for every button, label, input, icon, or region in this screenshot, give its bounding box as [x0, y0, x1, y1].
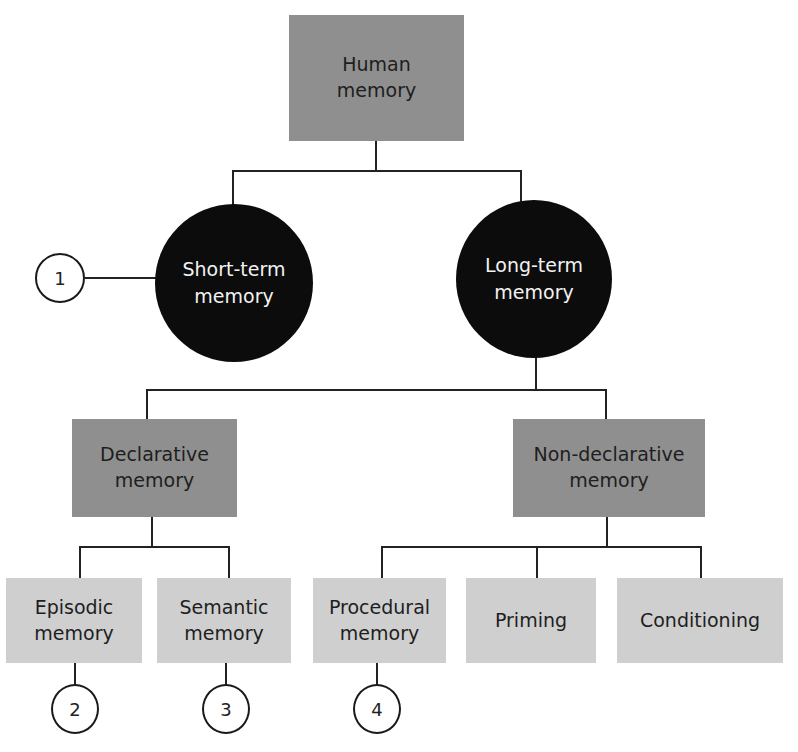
node-label: Conditioning — [640, 608, 760, 634]
marker-number: 2 — [69, 699, 80, 720]
connector-conditioning-drop — [700, 546, 702, 579]
marker-number: 4 — [371, 699, 382, 720]
connector-semantic-drop — [228, 546, 230, 579]
node-conditioning: Conditioning — [617, 578, 783, 663]
connector-marker-2 — [74, 663, 76, 685]
connector-level2-bar — [146, 389, 607, 391]
node-priming: Priming — [466, 578, 596, 663]
connector-level1-bar — [232, 170, 522, 172]
node-label: Declarative memory — [100, 442, 209, 493]
node-label: Short-term memory — [183, 256, 286, 309]
connector-marker-3 — [225, 663, 227, 685]
connector-episodic-drop — [79, 546, 81, 579]
connector-procedural-drop — [381, 546, 383, 579]
connector-declarative-drop — [146, 389, 148, 420]
node-procedural-memory: Procedural memory — [313, 578, 446, 663]
connector-declarative-bar — [79, 546, 230, 548]
connector-short-term-drop — [232, 170, 234, 206]
marker-1: 1 — [35, 253, 85, 303]
node-episodic-memory: Episodic memory — [6, 578, 142, 663]
node-label: Long-term memory — [485, 252, 583, 305]
connector-marker-1 — [85, 277, 157, 279]
marker-4: 4 — [353, 684, 401, 734]
connector-nondeclarative-bar — [381, 546, 702, 548]
connector-nondeclarative-drop — [605, 389, 607, 420]
marker-number: 1 — [54, 268, 65, 289]
node-semantic-memory: Semantic memory — [157, 578, 291, 663]
marker-number: 3 — [220, 699, 231, 720]
node-label: Non-declarative memory — [534, 442, 685, 493]
node-label: Semantic memory — [179, 595, 268, 646]
connector-long-term-stem — [535, 356, 537, 391]
node-label: Human memory — [337, 52, 416, 103]
marker-3: 3 — [202, 684, 250, 734]
connector-declarative-stem — [151, 517, 153, 548]
connector-nondeclarative-stem — [606, 517, 608, 548]
connector-root-stem — [375, 141, 377, 172]
node-label: Episodic memory — [34, 595, 113, 646]
node-nondeclarative-memory: Non-declarative memory — [513, 419, 705, 517]
node-human-memory: Human memory — [289, 15, 464, 141]
node-label: Procedural memory — [329, 595, 430, 646]
node-label: Priming — [495, 608, 567, 634]
marker-2: 2 — [51, 684, 99, 734]
connector-priming-drop — [536, 546, 538, 579]
node-declarative-memory: Declarative memory — [72, 419, 237, 517]
connector-long-term-drop — [520, 170, 522, 202]
node-long-term-memory: Long-term memory — [456, 200, 612, 358]
connector-marker-4 — [376, 663, 378, 685]
node-short-term-memory: Short-term memory — [155, 204, 313, 362]
